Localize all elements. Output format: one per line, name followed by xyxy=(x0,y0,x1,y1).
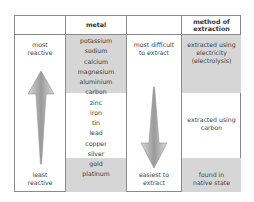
metal-item: calcium xyxy=(66,57,126,67)
most-difficult-label: most difficult to extract xyxy=(128,41,180,57)
method-native: found in native state xyxy=(182,171,241,187)
metal-item: platinum xyxy=(66,169,126,179)
metal-item: iron xyxy=(66,108,126,118)
metal-item: copper xyxy=(66,139,126,149)
method-electrolysis: extracted using electricity (electrolysi… xyxy=(182,41,241,65)
metal-item: silver xyxy=(66,149,126,159)
metal-item: potassium xyxy=(66,36,126,46)
metal-item: zinc xyxy=(66,98,126,108)
arrow-down-icon xyxy=(140,86,168,170)
most-reactive-label: most reactive xyxy=(19,41,61,57)
header-divider xyxy=(15,34,240,35)
metal-item: magnesium xyxy=(66,67,126,77)
column-divider-2 xyxy=(126,16,127,191)
easiest-label: easiest to extract xyxy=(128,171,180,187)
header-method: method of extraction xyxy=(182,16,241,34)
metal-list: potassium sodium calcium magnesium alumi… xyxy=(66,36,126,180)
metal-item: carbon xyxy=(66,87,126,97)
metal-item: tin xyxy=(66,118,126,128)
header-difficulty xyxy=(127,16,181,34)
method-carbon: extracted using carbon xyxy=(182,116,241,132)
metal-item: gold xyxy=(66,159,126,169)
least-reactive-label: least reactive xyxy=(19,171,61,187)
header-metal: metal xyxy=(66,16,126,34)
metal-item: lead xyxy=(66,128,126,138)
reactivity-series-table: metal method of extraction most reactive… xyxy=(14,15,241,192)
header-reactivity xyxy=(15,16,65,34)
arrow-up-icon xyxy=(27,70,55,166)
metal-item: sodium xyxy=(66,46,126,56)
metal-item: aluminium xyxy=(66,77,126,87)
